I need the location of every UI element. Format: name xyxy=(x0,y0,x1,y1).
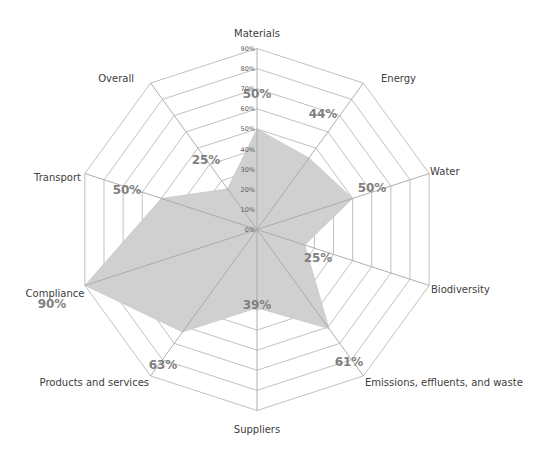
radial-tick-label: 20% xyxy=(241,186,255,194)
category-label: Water xyxy=(430,166,460,177)
radar-chart: 0%10%20%30%40%50%60%70%80%90% MaterialsE… xyxy=(0,0,538,460)
category-label: Materials xyxy=(234,28,280,39)
radial-tick-label: 80% xyxy=(241,65,255,73)
radial-tick-label: 10% xyxy=(241,206,255,214)
radial-tick-label: 50% xyxy=(241,125,255,133)
data-value-label: 50% xyxy=(243,87,272,101)
data-value-label: 61% xyxy=(335,355,364,369)
category-label: Products and services xyxy=(40,377,149,388)
category-label: Suppliers xyxy=(234,424,280,435)
category-label: Overall xyxy=(98,73,134,84)
data-value-label: 50% xyxy=(358,181,387,195)
data-value-label: 39% xyxy=(243,298,272,312)
data-value-label: 25% xyxy=(304,251,333,265)
data-value-label: 25% xyxy=(192,153,221,167)
radial-tick-label: 90% xyxy=(241,45,255,53)
data-value-label: 63% xyxy=(149,358,178,372)
category-label: Energy xyxy=(381,73,416,84)
radial-tick-label: 0% xyxy=(245,226,255,234)
radial-tick-label: 60% xyxy=(241,105,255,113)
data-value-label: 90% xyxy=(38,297,67,311)
category-label: Emissions, effluents, and waste xyxy=(365,377,523,388)
category-label: Biodiversity xyxy=(431,284,490,295)
radial-tick-label: 40% xyxy=(241,146,255,154)
data-value-label: 44% xyxy=(309,107,338,121)
data-value-label: 50% xyxy=(113,183,142,197)
radial-tick-label: 30% xyxy=(241,166,255,174)
category-label: Transport xyxy=(33,172,81,183)
